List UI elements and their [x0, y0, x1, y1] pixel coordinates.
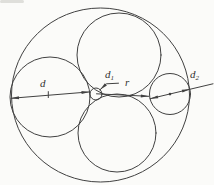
right-circle-center-dot [169, 93, 172, 96]
bottom-circle [78, 94, 156, 172]
d-dimension-line [11, 92, 90, 98]
d2-dimension-line [150, 84, 213, 99]
label-d2-subscript: 2 [196, 74, 200, 82]
diagram-svg [0, 0, 214, 185]
label-d2: d2 [190, 69, 199, 82]
label-d1-subscript: 1 [111, 74, 115, 82]
figure-canvas: d d1 r d2 [0, 0, 214, 185]
outer-circle [12, 8, 190, 182]
label-d: d [40, 78, 46, 89]
d2-arrow-right [182, 89, 190, 92]
label-r: r [125, 77, 129, 88]
d2-arrow-left [150, 95, 158, 98]
label-d1: d1 [105, 69, 114, 82]
top-circle [77, 13, 161, 97]
